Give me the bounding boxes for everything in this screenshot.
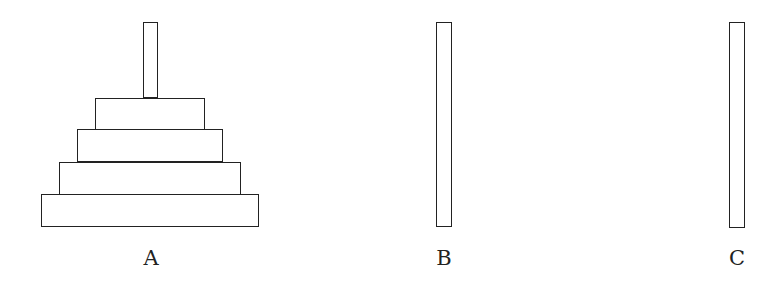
disk-1 bbox=[95, 98, 205, 130]
disk-2 bbox=[77, 129, 223, 162]
disk-3 bbox=[59, 162, 241, 195]
peg-c-label: C bbox=[729, 248, 745, 269]
peg-c bbox=[729, 22, 745, 228]
peg-a bbox=[143, 22, 158, 98]
peg-b bbox=[436, 22, 452, 227]
disk-4 bbox=[41, 194, 259, 227]
peg-a-label: A bbox=[143, 248, 158, 269]
peg-b-label: B bbox=[436, 248, 451, 269]
